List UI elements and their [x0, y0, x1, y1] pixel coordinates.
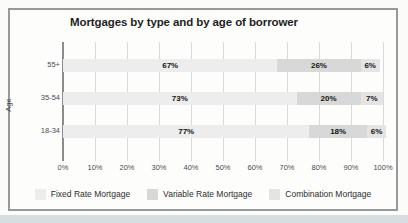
bar-segment: 6% [361, 59, 380, 72]
x-tick-label: 70% [272, 163, 302, 172]
x-tick-label: 30% [144, 163, 174, 172]
legend-item: Fixed Rate Mortgage [35, 189, 130, 200]
legend-swatch [35, 189, 46, 200]
bar-value-label: 7% [366, 94, 378, 103]
x-tick-label: 40% [176, 163, 206, 172]
bar-value-label: 77% [178, 127, 194, 136]
category-label: 18-34 [18, 126, 60, 136]
legend-swatch [147, 189, 158, 200]
bar-segment: 7% [361, 92, 383, 105]
bar-segment: 73% [63, 92, 297, 105]
bar-segment: 6% [367, 125, 386, 138]
legend-item: Combination Mortgage [269, 189, 371, 200]
gridline [383, 42, 384, 161]
legend-item: Variable Rate Mortgage [147, 189, 252, 200]
x-tick-label: 90% [336, 163, 366, 172]
x-tick-label: 100% [368, 163, 398, 172]
bar-value-label: 26% [311, 61, 327, 70]
chart-frame: Mortgages by type and by age of borrower… [8, 8, 398, 211]
x-tick-label: 20% [112, 163, 142, 172]
legend-swatch [269, 189, 280, 200]
x-tick-label: 60% [240, 163, 270, 172]
legend-label: Combination Mortgage [285, 189, 371, 199]
category-label: 35-54 [18, 93, 60, 103]
x-tick-label: 0% [48, 163, 78, 172]
legend-label: Variable Rate Mortgage [163, 189, 252, 199]
category-label: 55+ [18, 60, 60, 70]
bar-value-label: 6% [364, 61, 376, 70]
legend-label: Fixed Rate Mortgage [51, 189, 130, 199]
bar-value-label: 18% [330, 127, 346, 136]
x-tick-label: 10% [80, 163, 110, 172]
page-edge-shadow [0, 215, 408, 223]
bar-segment: 18% [309, 125, 367, 138]
bar-segment: 26% [277, 59, 360, 72]
bar-segment: 20% [297, 92, 361, 105]
bar-value-label: 6% [371, 127, 383, 136]
bar-value-label: 73% [172, 94, 188, 103]
bar-segment: 77% [63, 125, 309, 138]
legend: Fixed Rate MortgageVariable Rate Mortgag… [10, 186, 396, 202]
bar-value-label: 67% [162, 61, 178, 70]
bar-value-label: 20% [321, 94, 337, 103]
x-tick-label: 50% [208, 163, 238, 172]
x-tick-label: 80% [304, 163, 334, 172]
bar-segment: 67% [63, 59, 277, 72]
chart-title: Mortgages by type and by age of borrower [70, 16, 298, 28]
